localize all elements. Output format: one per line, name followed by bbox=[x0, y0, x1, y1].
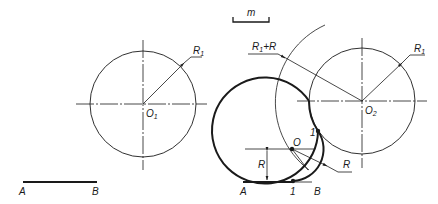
left-point-a-label: A bbox=[18, 186, 26, 197]
left-radius-label: R1 bbox=[193, 45, 204, 57]
left-point-b-label: B bbox=[92, 186, 99, 197]
tangent-point-line bbox=[291, 179, 295, 183]
tangent-point-circle-label: 1 bbox=[310, 127, 316, 138]
tangent-point-circle bbox=[316, 129, 320, 133]
right-radius-label: R1 bbox=[414, 43, 425, 55]
diagram-canvas: m R1 O1 A B R1+R R1 O2 bbox=[0, 0, 438, 204]
big-arc-r1-plus-r bbox=[275, 25, 325, 170]
right-point-b-label: B bbox=[314, 186, 321, 197]
construction-diagram: m R1 O1 A B R1+R R1 O2 bbox=[0, 0, 438, 204]
right-point-a-label: A bbox=[239, 186, 247, 197]
left-center-label: O1 bbox=[146, 108, 158, 120]
scale-marker-label: m bbox=[247, 7, 255, 18]
arc-center-label: O bbox=[293, 137, 301, 148]
right-figure: R1+R R1 O2 R R O 1 1 A B bbox=[212, 25, 427, 197]
big-arc-label: R1+R bbox=[252, 41, 276, 53]
left-figure: R1 O1 A B bbox=[18, 40, 207, 197]
fillet-radius-label: R bbox=[343, 159, 350, 170]
right-radius-leader bbox=[362, 63, 402, 101]
offset-dimension-label: R bbox=[258, 159, 265, 170]
scale-marker: m bbox=[233, 7, 269, 22]
r1-plus-r-leader bbox=[284, 57, 362, 101]
left-radius-leader bbox=[143, 63, 184, 104]
tangent-point-line-label: 1 bbox=[290, 186, 296, 197]
right-center-label: O2 bbox=[365, 105, 377, 117]
